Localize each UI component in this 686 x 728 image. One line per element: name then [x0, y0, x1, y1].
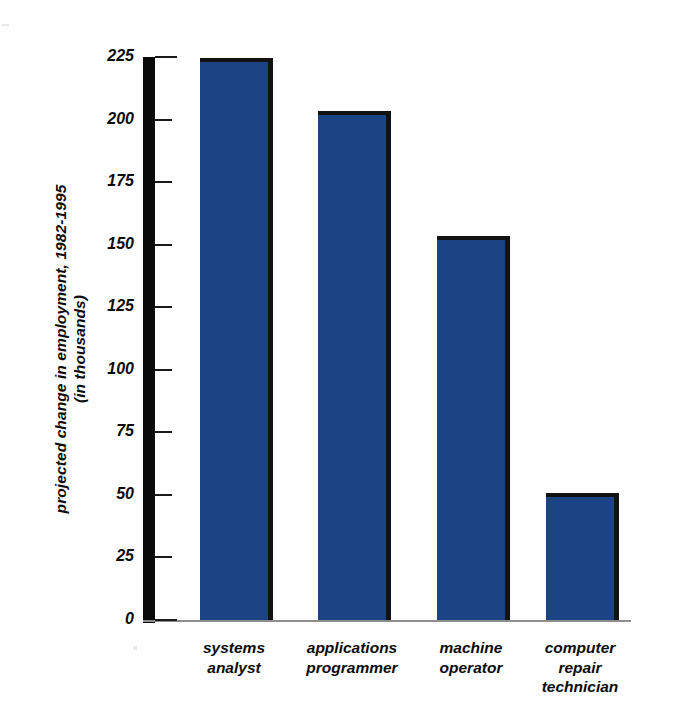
y-axis-tick-label: 225: [78, 48, 134, 64]
figure: projected change in employment, 1982-199…: [0, 0, 686, 728]
y-axis-tick-label: 25: [78, 548, 134, 564]
y-axis-tick: [155, 181, 172, 183]
bar[interactable]: [200, 62, 268, 620]
y-axis-tick-label: 200: [78, 111, 134, 127]
y-axis-tick-label: 0: [78, 611, 134, 627]
y-axis-tick: [155, 431, 172, 433]
y-axis-tick-label: 100: [78, 361, 134, 377]
plot-area: 0255075100125150175200225 systems analys…: [0, 0, 686, 728]
y-axis-tick-label: 50: [78, 486, 134, 502]
y-axis-tick: [155, 369, 172, 371]
y-axis-tick: [155, 306, 172, 308]
y-axis-tick-label: 125: [78, 298, 134, 314]
y-axis-tick-label: 150: [78, 236, 134, 252]
y-axis-tick: [155, 556, 172, 558]
y-axis-tick: [155, 619, 177, 621]
x-axis-baseline: [143, 620, 631, 622]
y-axis-tick-label: 175: [78, 173, 134, 189]
y-axis-spine: [143, 57, 155, 623]
x-axis-category-label: computer repair technician: [506, 638, 654, 697]
y-axis-tick-label: 75: [78, 423, 134, 439]
bar[interactable]: [318, 115, 386, 620]
bar[interactable]: [546, 497, 614, 620]
y-axis-tick: [155, 56, 177, 58]
y-axis-tick: [155, 494, 172, 496]
bar[interactable]: [437, 240, 505, 620]
y-axis-tick: [155, 244, 172, 246]
y-axis-tick: [155, 119, 172, 121]
